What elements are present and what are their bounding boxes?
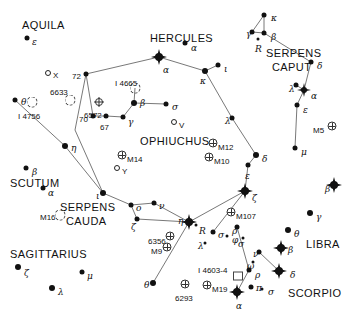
star-label: β [271,33,276,42]
star-label: α [191,44,197,53]
star-label: κ [200,77,206,86]
star-marker [152,201,157,206]
star-marker [261,288,264,291]
star-label: λ [58,288,64,297]
star-label: δ [290,271,295,280]
constellation-name: LIBRA [306,239,340,250]
variable-star-marker [171,119,177,125]
star-marker [297,83,311,97]
deep-sky-label: I 4756 [18,113,40,121]
globular-cluster-icon [203,281,212,290]
star-marker [135,217,140,222]
star-marker [195,224,198,227]
star-label: α [163,66,169,75]
star-marker [237,183,253,199]
constellation-line [65,146,103,193]
constellation-line [86,57,159,74]
constellation-name: CAUDA [66,216,107,227]
star-marker [246,163,251,168]
star-label: κ [271,14,277,23]
star-marker [150,280,156,286]
star-label: β [140,99,145,108]
star-label: ο [136,204,141,213]
star-label: ι [224,65,228,74]
constellation-line [232,118,256,155]
star-marker [121,115,126,120]
star-marker [129,203,134,208]
star-marker [216,63,221,68]
star-label: R [255,45,262,54]
star-marker [13,98,18,103]
deep-sky-label: M10 [214,158,230,166]
star-label: σ [172,103,178,112]
star-label: ι [96,192,100,201]
star-marker [247,268,252,273]
constellation-name: OPHIUCHUS [140,136,210,147]
star-marker [307,210,313,216]
constellation-line [205,71,232,118]
constellation-line [134,103,166,104]
star-label: α [48,189,54,198]
deep-sky-label: I 4603-4 [198,267,227,275]
deep-sky-label: 6633 [50,89,68,97]
open-cluster-icon [27,97,38,108]
star-label: ε [245,172,250,181]
deep-sky-label: 6293 [175,295,193,303]
globular-cluster-icon [328,122,337,131]
star-marker [271,263,287,279]
variable-star-label: X [53,72,58,80]
star-marker [257,38,260,41]
deep-sky-label: M16 [40,214,56,222]
constellation-name: SCORPIO [288,288,342,299]
star-label: γ [246,30,251,39]
globular-cluster-icon [205,153,214,162]
nebula-cluster-icon [233,272,243,281]
planetary-cluster-icon [95,98,103,106]
star-label: μ [301,148,307,157]
deep-sky-label: I 4665 [115,80,137,88]
star-label: σ [238,240,244,249]
star-label: 72 [72,73,81,81]
deep-sky-label: M107 [236,213,256,221]
globular-cluster-icon [227,208,236,217]
star-label: λ [289,85,295,94]
star-marker [164,102,169,107]
star-label: ζ [131,223,136,232]
star-marker [211,230,216,235]
globular-cluster-icon [118,151,127,160]
constellation-name: CAPUT [272,62,311,73]
star-marker [80,270,85,275]
star-label: R [199,227,206,236]
star-label: σ [268,288,274,297]
deep-sky-label: M12 [218,144,234,152]
star-label: θ [144,281,149,290]
star-chart: εαθκγβRδλαεμ727067γβακισλδεζηβαιοζνηRθζμ… [0,0,351,310]
star-marker [131,100,137,106]
deep-sky-label: M5 [313,127,324,135]
star-label: λ [198,242,204,251]
star-label: α [311,92,317,101]
star-label: ν [159,202,164,211]
variable-star-marker [114,165,120,171]
constellation-name: SCUTUM [10,178,59,189]
deep-sky-label: M9 [151,248,162,256]
star-label: σ [218,231,224,240]
star-marker [84,72,89,77]
star-label: δ [317,62,322,71]
star-label: η [178,217,183,226]
constellation-name: SAGITTARIUS [10,249,87,260]
star-marker [293,146,298,151]
star-marker [202,68,208,74]
star-marker [262,31,267,36]
star-label: γ [128,118,133,127]
star-marker [273,240,289,256]
star-marker [62,143,68,149]
globular-cluster-icon [163,243,172,252]
globular-cluster-icon [209,139,218,148]
star-marker [229,284,245,300]
star-label: θ [294,230,299,239]
star-label: β [288,246,293,255]
star-label: λ [225,117,231,126]
constellation-line [295,105,297,148]
constellation-line [86,74,93,116]
